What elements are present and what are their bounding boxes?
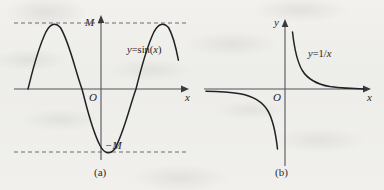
label-equation-sine: y=sin(x) — [127, 45, 162, 56]
hyperbola-branch-positive — [293, 32, 365, 89]
equation-sine-close: ) — [158, 44, 162, 55]
equation-reciprocal-x: x — [327, 48, 332, 59]
label-x-axis-a: x — [185, 92, 190, 103]
label-amplitude-negative-M: −M — [105, 140, 122, 151]
y-axis-arrowhead-icon — [98, 15, 105, 23]
caption-panel-a: (a) — [94, 167, 106, 178]
label-y-axis-b: y — [274, 17, 279, 28]
panel-a-sine-plot: M −M O x y=sin(x) (a) — [0, 0, 200, 190]
panel-b-reciprocal-plot: y x O y=1/x (b) — [198, 0, 384, 190]
equation-sine-op: =sin( — [132, 44, 154, 55]
panel-b-svg — [198, 0, 384, 190]
label-origin-b: O — [273, 92, 281, 103]
figure-root: M −M O x y=sin(x) (a) y — [0, 0, 384, 190]
panel-a-svg — [0, 0, 200, 190]
label-amplitude-M: M — [85, 17, 94, 28]
label-x-axis-b: x — [367, 92, 372, 103]
y-axis-arrowhead-icon-b — [282, 19, 289, 27]
equation-reciprocal-op: =1/ — [313, 48, 327, 59]
label-origin-a: O — [89, 92, 97, 103]
label-equation-reciprocal: y=1/x — [308, 49, 331, 60]
caption-panel-b: (b) — [275, 167, 288, 178]
hyperbola-branch-negative — [206, 91, 278, 149]
